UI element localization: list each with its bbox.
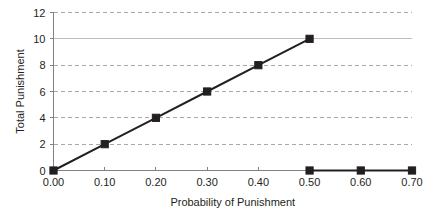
x-tick-label: 0.00: [43, 176, 64, 188]
y-tick-label: 6: [39, 86, 45, 98]
series-zero-punishment: [306, 167, 416, 174]
y-tick-label: 10: [33, 33, 45, 45]
tick-labels: 0246810120.000.100.200.300.400.500.600.7…: [33, 7, 422, 188]
x-tick-label: 0.30: [196, 176, 217, 188]
y-tick-label: 12: [33, 7, 45, 19]
chart-container: 0246810120.000.100.200.300.400.500.600.7…: [0, 0, 432, 217]
series-line-rising-punishment: [54, 39, 310, 171]
x-tick-label: 0.20: [145, 176, 166, 188]
y-tick-label: 4: [39, 112, 45, 124]
data-point-marker: [101, 141, 108, 148]
data-point-marker: [255, 62, 262, 69]
data-point-marker: [306, 35, 313, 42]
x-tick-label: 0.60: [350, 176, 371, 188]
data-point-marker: [408, 167, 415, 174]
x-tick-label: 0.50: [299, 176, 320, 188]
line-chart: 0246810120.000.100.200.300.400.500.600.7…: [0, 0, 432, 217]
data-point-marker: [152, 114, 159, 121]
data-point-marker: [306, 167, 313, 174]
y-axis-title: Total Punishment: [14, 49, 26, 133]
x-tick-label: 0.70: [401, 176, 422, 188]
x-tick-label: 0.40: [248, 176, 269, 188]
x-axis-title: Probability of Punishment: [170, 196, 295, 208]
data-point-marker: [50, 167, 57, 174]
data-series-group: [50, 35, 416, 174]
y-tick-label: 2: [39, 138, 45, 150]
y-tick-label: 8: [39, 59, 45, 71]
x-tick-label: 0.10: [94, 176, 115, 188]
data-point-marker: [204, 88, 211, 95]
data-point-marker: [357, 167, 364, 174]
series-rising-punishment: [50, 35, 313, 174]
